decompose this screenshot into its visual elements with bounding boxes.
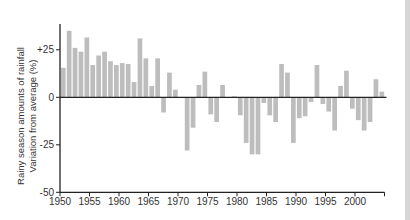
bar-1955	[85, 37, 90, 97]
y-axis-label-line1: Rainy season amounts of rainfall	[15, 31, 27, 201]
bar-1978	[220, 85, 225, 97]
x-tick-label: 1965	[137, 196, 160, 207]
bar-1960	[114, 65, 119, 97]
bar-1954	[79, 52, 84, 98]
y-axis-label: Rainy season amounts of rainfall Variati…	[15, 31, 39, 201]
bar-1970	[173, 90, 178, 98]
bar-1959	[108, 61, 113, 97]
bar-1966	[149, 86, 154, 97]
bar-1958	[102, 52, 107, 98]
x-tick-label: 1975	[196, 196, 219, 207]
bar-1962	[126, 64, 131, 97]
x-tick-label: 2000	[344, 196, 367, 207]
bar-1964	[138, 38, 143, 97]
x-tick-label: 1980	[226, 196, 249, 207]
bar-1992	[303, 97, 308, 116]
bar-1991	[297, 97, 302, 118]
bar-1965	[144, 58, 149, 97]
bar-1976	[208, 97, 213, 114]
bar-1974	[197, 85, 202, 97]
y-axis-label-line2: Variation from average (%)	[27, 31, 39, 201]
bar-2002	[362, 97, 367, 130]
x-tick-label: 1995	[314, 196, 337, 207]
bar-1957	[96, 56, 101, 98]
x-tick-label: 1985	[255, 196, 278, 207]
bar-1981	[238, 97, 243, 115]
bar-2004	[374, 79, 379, 97]
bar-1997	[332, 97, 337, 130]
y-tick-label: 0	[48, 92, 54, 103]
y-tick-label: -25	[40, 139, 55, 150]
x-ticks: 1950195519601965197019751980198519901995…	[49, 192, 385, 207]
bar-1961	[120, 63, 125, 97]
bar-1994	[315, 65, 320, 97]
bar-1998	[338, 86, 343, 97]
x-tick-label: 1970	[167, 196, 190, 207]
y-tick-label: +25	[37, 44, 54, 55]
x-tick-label: 1990	[285, 196, 308, 207]
bar-1985	[262, 97, 267, 103]
y-ticks: +250-25-50	[37, 44, 60, 198]
bar-1975	[203, 72, 208, 98]
bar-1999	[344, 71, 349, 98]
bar-2003	[368, 97, 373, 122]
bar-1986	[267, 97, 272, 115]
bar-1987	[273, 97, 278, 122]
bar-2005	[380, 92, 385, 98]
bar-1952	[67, 31, 72, 98]
bar-1984	[256, 97, 261, 154]
bar-1973	[191, 97, 196, 127]
window-edge-strip	[405, 0, 410, 220]
bar-2000	[350, 97, 355, 108]
x-tick-label: 1955	[78, 196, 101, 207]
bar-1996	[326, 97, 331, 111]
bar-1982	[244, 97, 249, 143]
bar-1953	[73, 48, 78, 97]
bar-1990	[291, 97, 296, 143]
bar-1968	[161, 97, 166, 112]
bar-1956	[90, 65, 95, 97]
bar-1988	[279, 64, 284, 97]
bar-1969	[167, 73, 172, 98]
bar-1993	[309, 97, 314, 102]
x-tick-label: 1950	[49, 196, 72, 207]
bar-1963	[132, 82, 137, 97]
bar-1977	[214, 97, 219, 122]
bar-1951	[61, 68, 66, 97]
bars-group	[61, 31, 384, 155]
x-tick-label: 1960	[108, 196, 131, 207]
bar-1983	[250, 97, 255, 154]
bar-2001	[356, 97, 361, 120]
rainfall-bar-chart: +250-25-50 19501955196019651970197519801…	[0, 0, 410, 220]
bar-1989	[285, 73, 290, 98]
bar-1995	[321, 97, 326, 104]
bar-1972	[185, 97, 190, 150]
bar-1967	[155, 58, 160, 97]
